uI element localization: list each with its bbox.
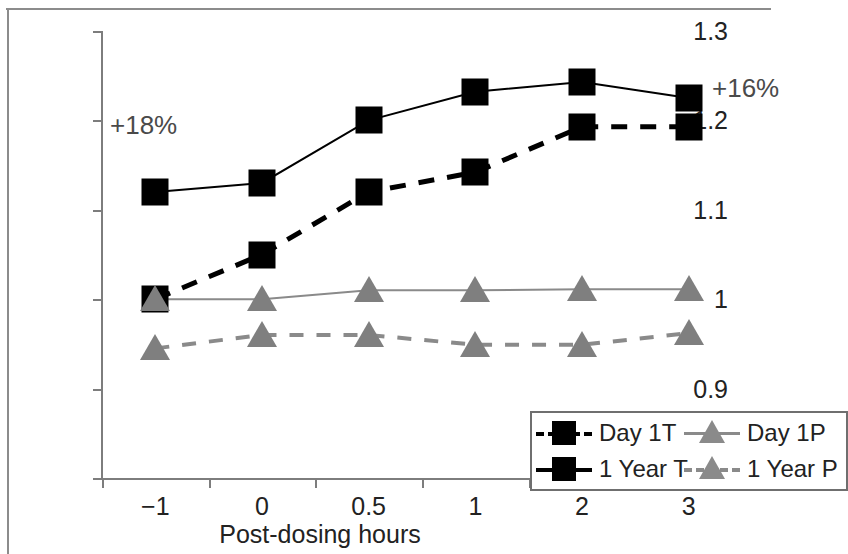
x-tick-label: 3 (682, 492, 696, 521)
y-tick-mark (93, 31, 102, 33)
x-tick-mark (422, 478, 424, 488)
series-line-1-year-t (155, 82, 688, 192)
legend-item-day-1t[interactable]: Day 1T (536, 419, 684, 447)
legend-item-1-year-t[interactable]: 1 Year T (536, 455, 684, 483)
legend: Day 1TDay 1P1 Year T1 Year P (530, 411, 848, 491)
x-tick-label: 1 (468, 492, 482, 521)
legend-swatch-triangle-icon (684, 455, 740, 483)
figure-border-left (7, 8, 9, 554)
legend-label: Day 1P (747, 419, 826, 447)
series-line-day-1p (155, 289, 688, 299)
legend-marker-square-icon (552, 421, 576, 445)
x-tick-label: 2 (575, 492, 589, 521)
data-point-day-1p-2 (354, 276, 384, 302)
series-line-1-year-p (155, 333, 688, 348)
annotation-18: +18% (110, 110, 177, 141)
data-point-1-year-p-2 (354, 321, 384, 347)
series-line-day-1t (155, 127, 688, 300)
legend-marker-triangle-icon (699, 456, 725, 479)
legend-swatch-triangle-icon (684, 419, 740, 447)
x-axis-label: Post-dosing hours (219, 520, 421, 549)
legend-item-day-1p[interactable]: Day 1P (684, 419, 844, 447)
legend-item-1-year-p[interactable]: 1 Year P (684, 455, 844, 483)
plot-area: 1.31.21.110.90.8 −100.5123 +18%+16% Day … (102, 31, 742, 478)
data-point-1-year-p-3 (460, 331, 490, 357)
x-tick-label: 0.5 (351, 492, 386, 521)
data-point-1-year-p-1 (247, 321, 277, 347)
data-point-1-year-t-4 (569, 68, 596, 95)
data-point-day-1p-1 (247, 285, 277, 311)
data-point-day-1p-5 (674, 275, 704, 301)
legend-label: 1 Year T (599, 455, 688, 483)
data-point-1-year-p-0 (140, 334, 170, 360)
figure-border-top (6, 8, 771, 10)
legend-label: 1 Year P (747, 455, 838, 483)
y-tick-mark (93, 389, 102, 391)
data-point-day-1t-2 (355, 178, 382, 205)
data-point-day-1p-3 (460, 276, 490, 302)
legend-marker-square-icon (552, 457, 576, 481)
y-tick-mark (93, 210, 102, 212)
data-point-1-year-t-3 (462, 78, 489, 105)
legend-swatch-square-icon (536, 419, 592, 447)
data-point-day-1t-5 (675, 113, 702, 140)
data-point-1-year-t-1 (249, 169, 276, 196)
data-point-day-1t-4 (569, 113, 596, 140)
annotation-16: +16% (712, 73, 779, 104)
x-tick-mark (315, 478, 317, 488)
y-tick-mark (93, 120, 102, 122)
data-point-day-1t-3 (462, 159, 489, 186)
data-point-1-year-t-0 (142, 178, 169, 205)
legend-swatch-square-icon (536, 455, 592, 483)
data-point-1-year-t-2 (355, 107, 382, 134)
data-point-1-year-p-5 (674, 319, 704, 345)
data-point-day-1p-0 (140, 285, 170, 311)
x-tick-mark (102, 478, 104, 488)
data-point-day-1t-1 (249, 241, 276, 268)
x-tick-mark (209, 478, 211, 488)
x-tick-label: −1 (141, 492, 170, 521)
x-tick-label: 0 (255, 492, 269, 521)
legend-marker-triangle-icon (699, 420, 725, 443)
y-tick-mark (93, 478, 102, 480)
data-point-day-1p-4 (567, 275, 597, 301)
data-point-1-year-p-4 (567, 331, 597, 357)
y-tick-mark (93, 299, 102, 301)
legend-label: Day 1T (599, 419, 676, 447)
data-point-1-year-t-5 (675, 85, 702, 112)
